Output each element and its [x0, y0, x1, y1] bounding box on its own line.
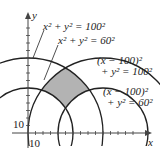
y-axis-label: y — [31, 9, 37, 21]
label-c1: x² + y² = 100² — [42, 20, 106, 32]
circles-diagram: y x 10 10 x² + y² = 100² x² + y² = 60² (… — [0, 0, 160, 154]
label-c2: x² + y² = 60² — [57, 34, 115, 46]
x-axis-label: x — [147, 136, 153, 148]
label-c3-line2: + y² = 100² — [101, 65, 153, 77]
y-tick-label: 10 — [13, 118, 25, 130]
label-c4-line2: + y² = 60² — [107, 96, 153, 108]
leader-c1 — [33, 30, 44, 58]
y-axis-arrow-icon — [25, 12, 31, 19]
x-tick-label: 10 — [29, 137, 41, 149]
